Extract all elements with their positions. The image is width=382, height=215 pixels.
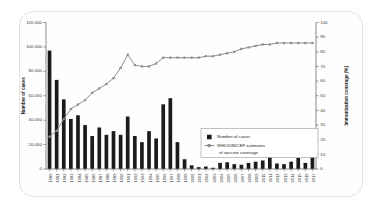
x-axis-tick-label: 2011 <box>268 173 273 183</box>
axis-titles-group: Number of casesImmunization coverage (%) <box>21 66 349 126</box>
y2-axis-tick-label: 90 <box>320 34 325 39</box>
legend-label: Number of cases <box>217 134 251 139</box>
x-axis-tick-label: 2005 <box>226 173 231 183</box>
x-axis-tick-label: 1999 <box>183 173 188 183</box>
coverage-marker <box>162 57 164 59</box>
coverage-marker <box>262 43 264 45</box>
legend-label: of vaccine coverage <box>219 150 259 155</box>
x-axis-tick-label: 1986 <box>91 173 96 183</box>
x-axis-tick-label: 2010 <box>261 173 266 183</box>
y2-axis-tick-label: 20 <box>320 137 325 142</box>
y2-axis-tick-label: 100 <box>320 20 328 25</box>
bar <box>296 158 300 169</box>
coverage-marker <box>63 118 65 120</box>
coverage-marker <box>56 130 58 132</box>
bar <box>176 142 180 169</box>
x-axis-tick-label: 1990 <box>119 173 124 183</box>
x-axis-tick-label: 1981 <box>55 173 60 183</box>
x-axis-tick-label: 1996 <box>162 173 167 183</box>
y-axis-tick-label: 120,000 <box>26 20 42 25</box>
chart-figure: 020,00040,00060,00080,000100,000120,000 … <box>0 0 382 215</box>
coverage-marker <box>141 65 143 67</box>
y-axis-tick-label: 40,000 <box>29 117 43 122</box>
y2-axis-tick-label: 60 <box>320 78 325 83</box>
coverage-marker <box>233 51 235 53</box>
x-axis-tick-label: 2006 <box>233 173 238 183</box>
chart-plot-area: 020,00040,00060,00080,000100,000120,000 … <box>0 0 382 215</box>
x-axis-tick-label: 2016 <box>304 173 309 183</box>
x-axis-tick-label: 1989 <box>112 173 117 183</box>
bar <box>275 164 279 169</box>
x-axis-tick-label: 2014 <box>290 173 295 183</box>
coverage-marker <box>91 92 93 94</box>
bar <box>190 165 194 169</box>
x-axis-tick-label: 2009 <box>254 173 259 183</box>
coverage-marker <box>112 77 114 79</box>
x-axis-tick-label: 1991 <box>126 173 131 183</box>
x-axis-tick-label: 1995 <box>155 173 160 183</box>
y2-axis-title: Immunization coverage (%) <box>344 66 349 126</box>
bar <box>225 162 229 169</box>
coverage-marker <box>120 67 122 69</box>
coverage-marker <box>283 42 285 44</box>
coverage-marker <box>255 45 257 47</box>
x-axis-tick-label: 1980 <box>48 173 53 183</box>
y2-axis-tick-label: 80 <box>320 49 325 54</box>
coverage-marker <box>98 87 100 89</box>
bar <box>247 163 251 169</box>
bar <box>62 99 66 169</box>
chart-svg: 020,00040,00060,00080,000100,000120,000 … <box>0 0 382 215</box>
bar <box>105 135 109 169</box>
x-axis-tick-label: 2007 <box>240 173 245 183</box>
coverage-marker <box>134 64 136 66</box>
coverage-marker <box>247 46 249 48</box>
coverage-marker <box>226 52 228 54</box>
legend-swatch-coverage <box>208 144 211 147</box>
bar <box>303 163 307 169</box>
coverage-marker <box>276 42 278 44</box>
x-axis-tick-label: 1993 <box>140 173 145 183</box>
coverage-marker <box>240 48 242 50</box>
x-axis-tick-label: 2004 <box>219 173 224 183</box>
bar <box>147 131 151 169</box>
coverage-marker <box>176 57 178 59</box>
bar <box>268 157 272 169</box>
bar <box>140 142 144 169</box>
y-axis-ticks-group: 020,00040,00060,00080,000100,000120,000 <box>26 20 46 172</box>
x-axis-tick-label: 1983 <box>69 173 74 183</box>
y2-axis-tick-label: 40 <box>320 108 325 113</box>
legend-group: Number of casesWHO/UNICEF estimatesof va… <box>201 129 318 158</box>
bar <box>83 125 87 169</box>
coverage-marker <box>84 99 86 101</box>
bar <box>282 164 286 169</box>
coverage-marker <box>304 42 306 44</box>
x-axis-tick-label: 1997 <box>169 173 174 183</box>
bar <box>183 159 187 169</box>
x-axis-tick-label: 2013 <box>283 173 288 183</box>
x-axis-tick-label: 2017 <box>311 173 316 183</box>
x-axis-tick-label: 1982 <box>62 173 67 183</box>
x-axis-tick-label: 2001 <box>197 173 202 183</box>
bar <box>133 136 137 169</box>
coverage-marker <box>212 55 214 57</box>
bar <box>126 117 130 170</box>
x-axis-tick-label: 1988 <box>105 173 110 183</box>
coverage-marker <box>148 65 150 67</box>
coverage-marker <box>198 57 200 59</box>
legend-swatch-cases <box>207 135 212 140</box>
line-series-group <box>48 42 313 138</box>
x-axis-tick-label: 1987 <box>98 173 103 183</box>
bar <box>154 138 158 169</box>
bar <box>48 51 52 169</box>
coverage-marker <box>105 83 107 85</box>
x-axis-tick-label: 2003 <box>212 173 217 183</box>
coverage-marker <box>127 54 129 56</box>
coverage-marker <box>48 136 50 138</box>
coverage-marker <box>169 57 171 59</box>
legend-label: WHO/UNICEF estimates <box>217 143 266 148</box>
y2-axis-tick-label: 50 <box>320 93 325 98</box>
coverage-marker <box>77 103 79 105</box>
bar <box>232 164 236 169</box>
x-axis-ticks-group: 1980198119821983198419851986198719881989… <box>48 169 316 183</box>
coverage-marker <box>70 108 72 110</box>
